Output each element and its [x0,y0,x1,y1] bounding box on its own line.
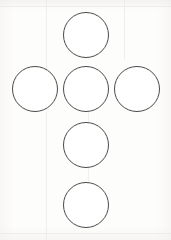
circle-center [63,66,109,112]
circle-lower [63,122,109,168]
circle-middle-left [12,66,58,112]
circle-bottom [63,182,109,228]
figure-canvas [0,0,171,240]
circle-group [0,0,171,240]
circle-middle-right [114,66,160,112]
circle-top [63,12,109,58]
